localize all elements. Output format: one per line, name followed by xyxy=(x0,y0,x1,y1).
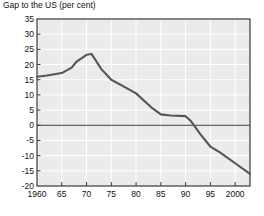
y-tick-label: 25 xyxy=(25,44,35,54)
x-tick-label: 90 xyxy=(181,189,191,199)
y-tick-label: 5 xyxy=(29,105,34,115)
y-tick-label: 0 xyxy=(29,120,34,130)
y-tick-label: 20 xyxy=(25,60,35,70)
y-tick-label: 10 xyxy=(25,90,35,100)
x-tick-label: 95 xyxy=(206,189,216,199)
x-axis-labels: 1960657075808590952000 xyxy=(28,189,245,199)
x-tick-label: 85 xyxy=(156,189,166,199)
chart-container: Gap to the US (per cent) 35302520151050-… xyxy=(0,0,264,216)
y-tick-label: -5 xyxy=(26,135,34,145)
x-tick-label: 70 xyxy=(82,189,92,199)
plot-background xyxy=(37,19,250,186)
x-tick-label: 2000 xyxy=(226,189,245,199)
y-tick-label: -15 xyxy=(22,166,35,176)
x-tick-label: 80 xyxy=(131,189,141,199)
y-tick-label: -10 xyxy=(22,151,35,161)
line-chart: 35302520151050-5-10-15-20 19606570758085… xyxy=(0,0,264,216)
y-tick-label: 15 xyxy=(25,75,35,85)
x-tick-label: 65 xyxy=(57,189,67,199)
y-tick-label: 35 xyxy=(25,14,35,24)
x-tick-label: 75 xyxy=(107,189,117,199)
x-tick-label: 1960 xyxy=(28,189,47,199)
y-tick-label: 30 xyxy=(25,29,35,39)
y-axis-labels: 35302520151050-5-10-15-20 xyxy=(22,14,35,191)
